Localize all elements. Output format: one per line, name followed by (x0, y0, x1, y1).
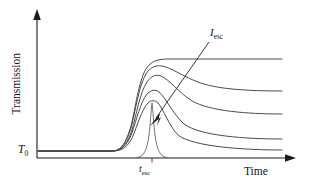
escape-pulse-group (137, 103, 167, 158)
escape-pulse-curve (137, 103, 167, 158)
iesc-arrow-shaft (156, 42, 209, 118)
intensity-label: Iesc (210, 27, 223, 38)
time-marker-label: tesc (139, 164, 150, 174)
time-marker-subscript: esc (142, 169, 150, 176)
intensity-subscript: esc (214, 33, 223, 41)
iesc-arrowhead-icon (150, 113, 161, 126)
x-axis-arrowhead-icon (285, 154, 296, 162)
baseline-label: T0 (18, 144, 28, 156)
baseline-subscript: 0 (24, 149, 28, 158)
transmission-curves-group (38, 59, 282, 151)
iesc-annotation-arrow (150, 42, 209, 126)
curve-4 (38, 90, 282, 151)
figure-canvas (0, 0, 311, 188)
curve-5-lowest (38, 101, 282, 151)
x-axis-label: Time (244, 166, 268, 178)
y-axis-arrowhead-icon (33, 9, 41, 20)
y-axis-label: Transmission (11, 42, 23, 126)
figure-root: Transmission Time T0 tesc Iesc (0, 0, 311, 188)
